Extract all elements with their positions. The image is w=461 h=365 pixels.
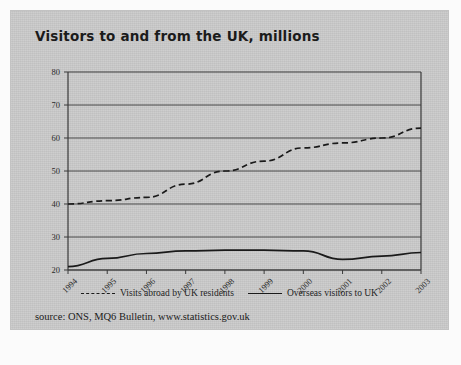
y-axis-tick-label: 70: [38, 100, 60, 110]
legend-item-overseas-visitors: Overseas visitors to UK: [248, 288, 378, 298]
legend-item-visits-abroad: Visits abroad by UK residents: [81, 288, 234, 298]
y-axis-tick-label: 50: [38, 166, 60, 176]
y-axis-tick-label: 20: [38, 265, 60, 275]
plot-area: 20304050607080 1994199519961997199819992…: [11, 11, 448, 329]
source-note: source: ONS, MQ6 Bulletin, www.statistic…: [35, 311, 250, 322]
solid-line-swatch-icon: [248, 293, 282, 294]
y-axis-tick-label: 30: [38, 232, 60, 242]
y-axis-tick-label: 80: [38, 67, 60, 77]
legend-label-overseas-visitors: Overseas visitors to UK: [287, 288, 378, 298]
figure-panel: Visitors to and from the UK, millions 20…: [11, 11, 448, 329]
y-axis-tick-label: 40: [38, 199, 60, 209]
chart-legend: Visits abroad by UK residents Overseas v…: [11, 288, 448, 298]
dashed-line-swatch-icon: [81, 293, 115, 294]
scanned-page-background: Visitors to and from the UK, millions 20…: [0, 0, 461, 365]
legend-label-visits-abroad: Visits abroad by UK residents: [120, 288, 234, 298]
y-axis-tick-label: 60: [38, 133, 60, 143]
